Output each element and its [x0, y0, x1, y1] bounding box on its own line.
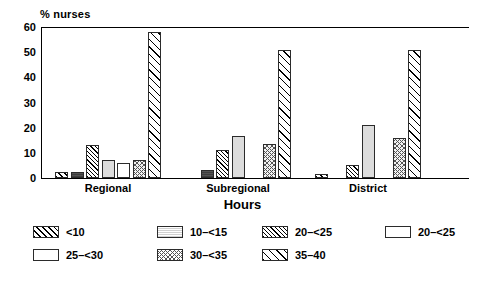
- bar: [278, 50, 291, 178]
- bar: [393, 138, 406, 178]
- bar: [86, 145, 99, 178]
- bar: [102, 160, 115, 178]
- y-tick-label: 50: [24, 47, 36, 57]
- bar: [216, 150, 229, 178]
- bar: [315, 174, 328, 178]
- legend-item[interactable]: 30–<35: [157, 249, 227, 261]
- legend-label: 10–<15: [190, 226, 227, 238]
- legend-label: 35–40: [295, 249, 326, 261]
- bar: [232, 136, 245, 178]
- legend: <1010–<1520–<2520–<2525–<3030–<3535–40: [0, 226, 485, 276]
- x-category-label: District: [315, 182, 421, 194]
- plot-area: % nurses 0102030405060 RegionalSubregion…: [0, 0, 485, 200]
- bar-chart: % nurses 0102030405060 RegionalSubregion…: [0, 0, 485, 281]
- y-tick-label: 10: [24, 148, 36, 158]
- y-axis-title: % nurses: [40, 8, 91, 20]
- x-category-label: Regional: [55, 182, 161, 194]
- bar: [346, 165, 359, 178]
- legend-swatch: [385, 226, 411, 238]
- bar: [71, 172, 84, 178]
- legend-label: 30–<35: [190, 249, 227, 261]
- legend-item[interactable]: 25–<30: [33, 249, 103, 261]
- bar-group: [55, 27, 161, 178]
- legend-label: 20–<25: [418, 226, 455, 238]
- bar: [201, 170, 214, 178]
- bar: [148, 32, 161, 178]
- legend-label: <10: [66, 226, 85, 238]
- legend-swatch: [157, 249, 183, 261]
- bar: [133, 160, 146, 178]
- legend-swatch: [33, 249, 59, 261]
- bar: [263, 144, 276, 178]
- legend-item[interactable]: 35–40: [262, 249, 326, 261]
- legend-swatch: [262, 249, 288, 261]
- legend-item[interactable]: 20–<25: [385, 226, 455, 238]
- legend-label: 25–<30: [66, 249, 103, 261]
- bar-group: [315, 27, 421, 178]
- legend-item[interactable]: 10–<15: [157, 226, 227, 238]
- legend-swatch: [33, 226, 59, 238]
- bar: [362, 125, 375, 178]
- bar: [55, 172, 68, 178]
- bar: [408, 50, 421, 178]
- x-category-label: Subregional: [185, 182, 291, 194]
- legend-swatch: [262, 226, 288, 238]
- y-tick-label: 60: [24, 22, 36, 32]
- y-axis-tick-labels: 0102030405060: [0, 0, 38, 200]
- bar: [117, 163, 130, 178]
- legend-item[interactable]: <10: [33, 226, 85, 238]
- legend-label: 20–<25: [295, 226, 332, 238]
- legend-swatch: [157, 226, 183, 238]
- y-tick-label: 30: [24, 98, 36, 108]
- y-tick-label: 0: [30, 173, 36, 183]
- y-tick-label: 40: [24, 72, 36, 82]
- x-axis-title: Hours: [0, 197, 485, 212]
- y-tick-label: 20: [24, 123, 36, 133]
- legend-item[interactable]: 20–<25: [262, 226, 332, 238]
- bar-group: [185, 27, 291, 178]
